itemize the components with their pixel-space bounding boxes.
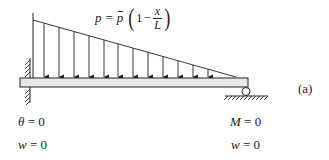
formula-open-paren: (	[129, 5, 135, 31]
left-condition-theta: θ = 0	[18, 115, 45, 128]
formula-minus: −	[144, 10, 151, 26]
formula-numerator: x	[153, 5, 162, 19]
ground-hatching-icon	[224, 96, 268, 100]
formula-fraction: x L	[153, 5, 162, 32]
formula-one: 1	[136, 10, 143, 26]
right-condition-moment: M = 0	[230, 115, 261, 128]
figure-label: (a)	[298, 82, 312, 95]
formula-denominator: L	[154, 19, 161, 32]
roller-support	[224, 88, 268, 101]
formula-p: p	[95, 10, 102, 26]
beam	[20, 78, 248, 87]
left-condition-w: w = 0	[18, 138, 47, 151]
formula-close-paren: )	[164, 5, 170, 31]
formula-pbar: p	[117, 10, 124, 26]
formula-equals: =	[106, 10, 113, 26]
right-condition-w: w = 0	[231, 138, 260, 151]
load-formula: p = p ( 1 − x L )	[95, 5, 172, 32]
